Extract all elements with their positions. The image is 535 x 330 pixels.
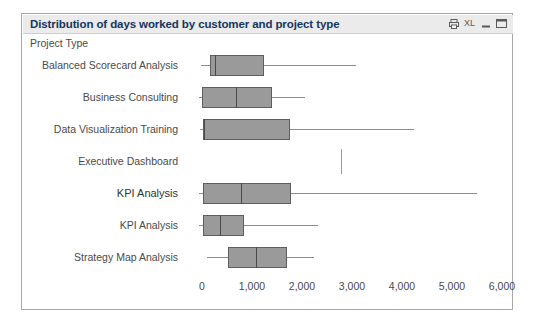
boxplot-row[interactable]: Business Consulting <box>23 82 513 114</box>
boxplot-row[interactable]: Data Visualization Training <box>23 114 513 146</box>
boxplot-row[interactable]: KPI Analysis <box>23 178 513 210</box>
median-line <box>220 215 221 236</box>
box-glyph[interactable] <box>23 146 513 178</box>
x-axis-tick-label: 1,000 <box>239 280 265 292</box>
titlebar-actions: XL <box>448 17 507 30</box>
whisker-upper <box>272 97 305 98</box>
single-value-marker <box>341 149 342 174</box>
whisker-lower <box>201 65 210 66</box>
median-line <box>204 119 205 140</box>
boxplot-row[interactable]: Executive Dashboard <box>23 146 513 178</box>
median-line <box>236 87 237 108</box>
box-glyph[interactable] <box>23 210 513 242</box>
print-icon[interactable] <box>448 17 459 30</box>
iqr-box[interactable] <box>203 215 244 236</box>
x-axis-tick-label: 5,000 <box>439 280 465 292</box>
page-title: Distribution of days worked by customer … <box>30 18 339 30</box>
median-line <box>256 247 257 268</box>
boxplot-row[interactable]: KPI Analysis <box>23 210 513 242</box>
excel-export-label: XL <box>464 19 475 28</box>
iqr-box[interactable] <box>210 55 264 76</box>
boxplot-plot-area: Balanced Scorecard AnalysisBusiness Cons… <box>23 50 513 310</box>
box-glyph[interactable] <box>23 82 513 114</box>
box-glyph[interactable] <box>23 50 513 82</box>
iqr-box[interactable] <box>202 87 272 108</box>
box-glyph[interactable] <box>23 114 513 146</box>
iqr-box[interactable] <box>228 247 287 268</box>
box-glyph[interactable] <box>23 178 513 210</box>
iqr-box[interactable] <box>203 183 291 204</box>
whisker-lower <box>207 257 228 258</box>
panel-title-bar: Distribution of days worked by customer … <box>23 15 513 34</box>
whisker-upper <box>287 257 314 258</box>
x-axis-tick-label: 2,000 <box>289 280 315 292</box>
iqr-box[interactable] <box>203 119 290 140</box>
whisker-upper <box>290 129 414 130</box>
x-axis-tick-label: 4,000 <box>389 280 415 292</box>
minimize-icon[interactable] <box>480 17 491 30</box>
median-line <box>215 55 216 76</box>
excel-export-icon[interactable]: XL <box>464 17 475 30</box>
boxplot-row[interactable]: Balanced Scorecard Analysis <box>23 50 513 82</box>
chart-panel: Distribution of days worked by customer … <box>21 13 513 310</box>
whisker-upper <box>291 193 477 194</box>
whisker-upper <box>264 65 356 66</box>
maximize-icon[interactable] <box>496 17 507 30</box>
boxplot-row[interactable]: Strategy Map Analysis <box>23 242 513 274</box>
x-axis: 01,0002,0003,0004,0005,0006,000 <box>23 280 513 300</box>
x-axis-tick-label: 6,000 <box>489 280 515 292</box>
x-axis-tick-label: 0 <box>199 280 205 292</box>
x-axis-tick-label: 3,000 <box>339 280 365 292</box>
median-line <box>241 183 242 204</box>
whisker-upper <box>244 225 318 226</box>
box-glyph[interactable] <box>23 242 513 274</box>
axis-group-label: Project Type <box>30 37 88 49</box>
